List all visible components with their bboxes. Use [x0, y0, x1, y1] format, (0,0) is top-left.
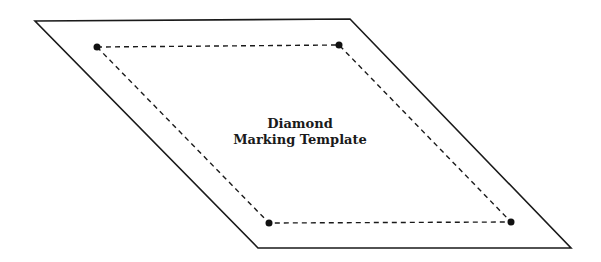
corner-dot-bottom-right — [508, 219, 515, 226]
corner-dot-top-left — [94, 44, 101, 51]
title-line-2: Marking Template — [220, 132, 380, 148]
corner-dot-top-right — [336, 42, 343, 49]
corner-dot-bottom-left — [266, 220, 273, 227]
title-line-1: Diamond — [220, 116, 380, 132]
template-title: Diamond Marking Template — [220, 116, 380, 148]
